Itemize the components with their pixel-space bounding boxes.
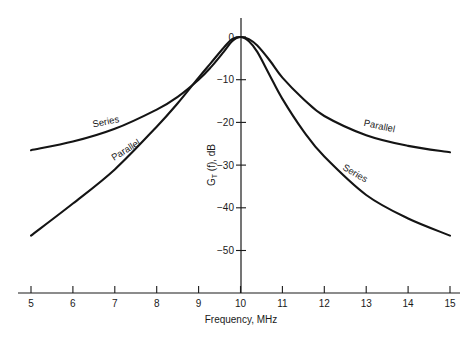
x-tick-label: 10 [235,298,247,309]
y-axis-title-rest: (f), dB [206,144,217,174]
x-tick-label: 12 [319,298,331,309]
x-tick-label: 9 [196,298,202,309]
curve-labels: SeriesParallelParallelSeries [91,113,396,184]
curve-label-parallel-right: Parallel [363,117,396,134]
y-tick-label: −40 [217,202,234,213]
x-tick-label: 8 [154,298,160,309]
curve-label-series-right: Series [341,161,370,184]
y-tick-label: −20 [217,117,234,128]
x-axis-title: Frequency, MHz [205,314,278,325]
x-tick-label: 7 [112,298,118,309]
y-axis-title: GT (f), dB [206,144,218,186]
y-tick-label: −30 [217,160,234,171]
y-tick-label: −10 [217,74,234,85]
x-tick-label: 14 [403,298,415,309]
y-axis: 0−10−20−30−40−50 [217,18,246,293]
x-tick-label: 15 [444,298,456,309]
curve-label-series-left: Series [91,113,120,129]
x-axis: 56789101112131415 [18,286,460,309]
x-tick-label: 6 [70,298,76,309]
x-tick-label: 5 [28,298,34,309]
y-tick-label: −50 [217,245,234,256]
x-tick-label: 11 [277,298,288,309]
x-tick-label: 13 [361,298,373,309]
gain-vs-frequency-chart: 56789101112131415 0−10−20−30−40−50 Serie… [0,0,475,341]
